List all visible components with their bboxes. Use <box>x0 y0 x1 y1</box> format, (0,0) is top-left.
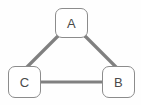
edge-a-b <box>85 36 116 67</box>
graph-node-b[interactable]: B <box>102 66 135 98</box>
graph-node-c-label: C <box>20 76 30 89</box>
graph-node-c[interactable]: C <box>8 66 41 98</box>
edge-a-c <box>27 36 58 67</box>
graph-node-a[interactable]: A <box>55 8 88 38</box>
graph-node-b-label: B <box>114 76 123 89</box>
graph-diagram: A C B <box>0 0 141 105</box>
graph-node-a-label: A <box>67 17 76 30</box>
